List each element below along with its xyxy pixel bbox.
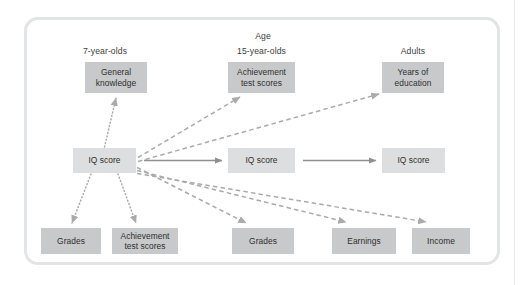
node-years-of-education: Years ofeducation xyxy=(382,62,444,93)
node-label: Achievementtest scores xyxy=(237,67,286,88)
node-label: Generalknowledge xyxy=(96,67,137,88)
column-header-adults: Adults xyxy=(383,46,443,57)
node-label: IQ score xyxy=(88,155,120,165)
node-label: Years ofeducation xyxy=(395,67,432,88)
node-general-knowledge: Generalknowledge xyxy=(85,62,147,93)
node-iq-score-15: IQ score xyxy=(228,148,295,173)
node-grades-7: Grades xyxy=(41,228,101,254)
age-axis-label: Age xyxy=(243,31,283,42)
column-header-15-year-olds: 15-year-olds xyxy=(228,46,295,57)
node-label: Earnings xyxy=(347,236,380,246)
node-label: IQ score xyxy=(245,155,277,165)
page-gutter-rule xyxy=(514,0,515,285)
node-achievement-15: Achievementtest scores xyxy=(228,62,295,93)
node-label: Grades xyxy=(57,236,85,246)
node-iq-score-adult: IQ score xyxy=(382,148,445,173)
node-label: Grades xyxy=(249,236,277,246)
node-grades-15: Grades xyxy=(232,228,294,254)
node-income-adult: Income xyxy=(412,228,470,254)
node-iq-score-7: IQ score xyxy=(73,148,136,173)
node-label: Income xyxy=(427,236,455,246)
node-label: IQ score xyxy=(397,155,429,165)
column-header-7-year-olds: 7-year-olds xyxy=(75,46,135,57)
node-earnings-adult: Earnings xyxy=(332,228,396,254)
figure-canvas: Age 7-year-olds 15-year-olds Adults Gene… xyxy=(0,0,523,285)
node-label: Achievementtest scores xyxy=(121,231,170,252)
node-achievement-7: Achievementtest scores xyxy=(112,228,178,254)
